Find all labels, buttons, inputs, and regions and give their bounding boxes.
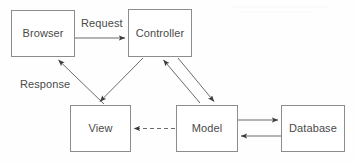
edge-label-response: Response [20,79,70,90]
diagram-canvas: Browser Controller View Model Database R… [0,0,356,164]
node-browser[interactable]: Browser [11,10,75,57]
edge-label-request: Request [81,18,123,29]
node-model[interactable]: Model [176,105,238,152]
node-database[interactable]: Database [281,105,345,152]
edge-model-to-controller [164,60,201,103]
node-browser-label: Browser [22,28,63,39]
node-controller-label: Controller [136,28,185,39]
node-database-label: Database [289,123,337,134]
node-view-label: View [88,123,112,134]
node-model-label: Model [192,123,222,134]
node-controller[interactable]: Controller [128,9,192,57]
edge-controller-to-model [178,58,214,102]
node-view[interactable]: View [70,105,131,152]
edge-controller-to-view [100,58,143,102]
